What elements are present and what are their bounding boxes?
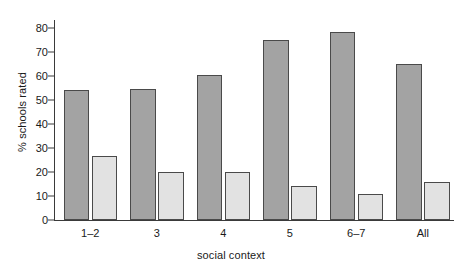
plot-area <box>55 14 454 220</box>
y-tick-label: 50 <box>26 95 48 106</box>
bar-group <box>321 14 388 220</box>
y-tick-label: 30 <box>26 143 48 154</box>
y-tick-label: 70 <box>26 47 48 58</box>
y-tick-mark <box>48 100 54 101</box>
bar <box>197 75 223 220</box>
y-tick-mark <box>48 52 54 53</box>
y-tick-label: 0 <box>26 215 48 226</box>
bar <box>158 172 184 220</box>
bar-group <box>188 14 255 220</box>
bar-group <box>122 14 189 220</box>
x-tick-label: 6–7 <box>347 228 365 239</box>
x-tick-label: 1–2 <box>81 228 99 239</box>
y-tick-mark <box>48 172 54 173</box>
bar <box>396 64 422 220</box>
y-tick-mark <box>48 148 54 149</box>
bar <box>130 89 156 220</box>
y-tick-mark <box>48 220 54 221</box>
x-tick-label: 3 <box>154 228 160 239</box>
y-axis-tick-labels: 01020304050607080 <box>14 0 48 274</box>
y-tick-label: 40 <box>26 119 48 130</box>
bar <box>64 90 90 220</box>
y-tick-label: 80 <box>26 23 48 34</box>
y-tick-mark <box>48 28 54 29</box>
bar <box>263 40 289 220</box>
y-tick-label: 60 <box>26 71 48 82</box>
y-tick-label: 20 <box>26 167 48 178</box>
bar <box>424 182 450 220</box>
bar-group <box>388 14 455 220</box>
x-axis-label: social context <box>0 250 462 261</box>
bar-chart: % schools rated 01020304050607080 1–2345… <box>0 0 462 274</box>
y-tick-mark <box>48 124 54 125</box>
y-tick-mark <box>48 196 54 197</box>
bar <box>358 194 384 220</box>
bar-group <box>255 14 322 220</box>
bar <box>92 156 118 220</box>
x-tick-label: 4 <box>220 228 226 239</box>
bar <box>330 32 356 220</box>
x-tick-label: 5 <box>287 228 293 239</box>
y-tick-mark <box>48 76 54 77</box>
y-tick-label: 10 <box>26 191 48 202</box>
bar-group <box>55 14 122 220</box>
x-axis-line <box>54 220 454 221</box>
bar <box>291 186 317 220</box>
x-tick-label: All <box>417 228 429 239</box>
bar <box>225 172 251 220</box>
